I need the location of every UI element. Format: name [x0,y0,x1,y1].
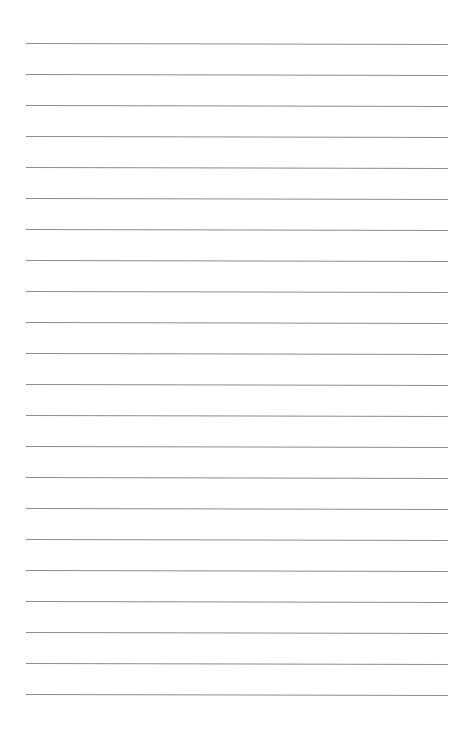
ruled-line [26,694,448,696]
ruled-line [26,570,448,572]
ruled-line [26,167,448,169]
ruled-line [26,508,448,510]
ruled-line [26,477,448,479]
ruled-line [26,260,448,262]
ruled-line [26,353,448,355]
ruled-line [26,136,448,138]
lined-page [0,0,456,738]
ruled-line [26,663,448,665]
ruled-line [26,322,448,324]
ruled-line [26,198,448,200]
ruled-line [26,43,448,45]
ruled-line [26,384,448,386]
ruled-line [26,601,448,603]
ruled-line [26,105,448,107]
ruled-line [26,291,448,293]
ruled-line [26,632,448,634]
ruled-line [26,74,448,76]
ruled-line [26,415,448,417]
ruled-line [26,539,448,541]
ruled-line [26,229,448,231]
ruled-line [26,446,448,448]
